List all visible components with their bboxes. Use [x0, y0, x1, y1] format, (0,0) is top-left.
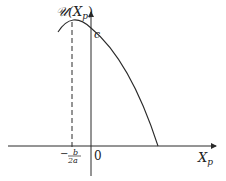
x-axis-label: Xp [197, 150, 213, 167]
parabola-diagram: 𝒰(Xp) c 0 − b 2a Xp [0, 0, 226, 181]
y-axis-label: 𝒰(Xp) [56, 4, 93, 21]
vertex-label-den: 2a [67, 156, 78, 165]
y-intercept-label: c [94, 28, 100, 41]
parabola-curve [58, 20, 158, 146]
origin-label: 0 [94, 149, 102, 163]
